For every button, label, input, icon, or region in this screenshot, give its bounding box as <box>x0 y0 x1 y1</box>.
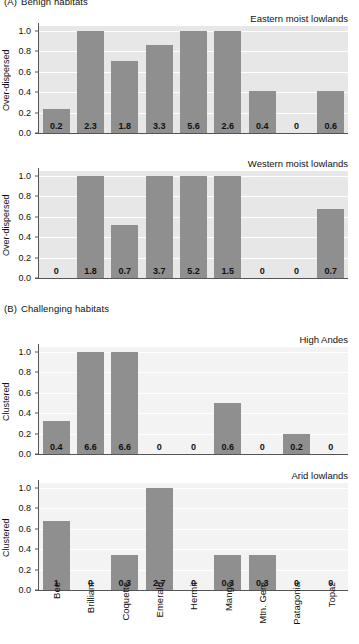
bar-value-label: 0.6 <box>314 122 348 131</box>
bar-value-label: 0 <box>73 579 107 588</box>
bar-slot[interactable]: 0.2 <box>39 26 73 133</box>
x-tick-slot[interactable]: Patagonia <box>279 582 313 644</box>
bar-slot[interactable]: 1.8 <box>108 26 142 133</box>
bar-value-label: 6.6 <box>108 443 142 452</box>
bar-slot[interactable]: 0 <box>73 483 107 590</box>
y-tick-label: 1.0 <box>18 27 31 36</box>
bar-slot[interactable]: 2.7 <box>142 483 176 590</box>
x-tick-slot[interactable]: Bee <box>39 582 73 644</box>
x-tick-slot[interactable]: Hermit <box>176 582 210 644</box>
plot-area: 0.22.31.83.35.62.60.400.6 <box>39 26 348 133</box>
bar[interactable] <box>180 176 207 278</box>
bar-slot[interactable]: 1.5 <box>211 171 245 278</box>
bar-slot[interactable]: 5.2 <box>176 171 210 278</box>
bar-value-label: 0.7 <box>314 267 348 276</box>
panel-a-title: Benign habitats <box>21 0 88 7</box>
bar-slot[interactable]: 0 <box>142 347 176 454</box>
bar-value-label: 0.3 <box>245 579 279 588</box>
y-tick-label: 0.8 <box>18 504 31 513</box>
bar-series: 0.46.66.6000.600.20 <box>39 347 348 454</box>
y-tick-labels: 0.00.20.40.60.81.0 <box>14 26 35 133</box>
chart-title: Western moist lowlands <box>248 158 348 169</box>
bar-value-label: 0 <box>176 579 210 588</box>
y-tick-label: 1.0 <box>18 348 31 357</box>
bar-value-label: 3.7 <box>142 267 176 276</box>
bar-value-label: 5.2 <box>176 267 210 276</box>
y-tick-label: 0.2 <box>18 253 31 262</box>
bar-slot[interactable]: 0.7 <box>108 171 142 278</box>
y-tick-label: 0.8 <box>18 368 31 377</box>
bar-slot[interactable]: 5.6 <box>176 26 210 133</box>
bar-slot[interactable]: 0 <box>245 347 279 454</box>
bar-value-label: 1.8 <box>73 267 107 276</box>
x-axis-category-labels: BeeBrilliantCoquetteEmeraldHermitMangoMt… <box>39 582 348 644</box>
bar-slot[interactable]: 0.4 <box>39 347 73 454</box>
bar-slot[interactable]: 2.3 <box>73 26 107 133</box>
bar-slot[interactable]: 0.6 <box>211 347 245 454</box>
bar-slot[interactable]: 0.2 <box>279 347 313 454</box>
bar-slot[interactable]: 2.6 <box>211 26 245 133</box>
bar-slot[interactable]: 0.4 <box>245 26 279 133</box>
bar-slot[interactable]: 0.3 <box>108 483 142 590</box>
bar-value-label: 0.3 <box>211 579 245 588</box>
bar-slot[interactable]: 3.7 <box>142 171 176 278</box>
bar-slot[interactable]: 0 <box>314 483 348 590</box>
bar[interactable] <box>77 352 104 454</box>
bar-slot[interactable]: 3.3 <box>142 26 176 133</box>
bar-slot[interactable]: 0 <box>314 347 348 454</box>
y-tick-label: 0.6 <box>18 67 31 76</box>
bar-slot[interactable]: 1 <box>39 483 73 590</box>
bar-value-label: 0.2 <box>39 122 73 131</box>
bar-slot[interactable]: 0 <box>176 483 210 590</box>
x-tick-slot[interactable]: Brilliant <box>73 582 107 644</box>
bar[interactable] <box>214 176 241 278</box>
plot-area: 0.46.66.6000.600.20 <box>39 347 348 454</box>
bar-slot[interactable]: 6.6 <box>108 347 142 454</box>
bar-value-label: 3.3 <box>142 122 176 131</box>
bar-value-label: 0 <box>142 443 176 452</box>
bar-slot[interactable]: 0 <box>39 171 73 278</box>
y-tick-label: 0.6 <box>18 212 31 221</box>
bar[interactable] <box>77 176 104 278</box>
bar-value-label: 0 <box>279 579 313 588</box>
bar[interactable] <box>111 352 138 454</box>
bar[interactable] <box>146 488 173 590</box>
panel-b-label: (B)Challenging habitats <box>4 303 109 314</box>
bar-slot[interactable]: 0.3 <box>211 483 245 590</box>
bar-slot[interactable]: 0 <box>279 171 313 278</box>
x-tick-slot[interactable]: Mango <box>211 582 245 644</box>
bar-value-label: 0 <box>176 443 210 452</box>
bar-value-label: 0.2 <box>279 443 313 452</box>
bar-value-label: 0.3 <box>108 579 142 588</box>
x-tick-slot[interactable]: Topaz <box>314 582 348 644</box>
bar-slot[interactable]: 0.3 <box>245 483 279 590</box>
x-tick-label: Mtn. Gem <box>257 582 268 624</box>
bar-value-label: 0 <box>279 267 313 276</box>
figure-root: (A)Benign habitats (B)Challenging habita… <box>0 0 359 644</box>
bar-value-label: 2.7 <box>142 579 176 588</box>
bar-slot[interactable]: 0.6 <box>314 26 348 133</box>
bar[interactable] <box>146 176 173 278</box>
y-tick-labels: 0.00.20.40.60.81.0 <box>14 347 35 454</box>
bar-slot[interactable]: 0.7 <box>314 171 348 278</box>
bar-series: 100.32.700.30.300 <box>39 483 348 590</box>
bar[interactable] <box>77 31 104 133</box>
bar-value-label: 5.6 <box>176 122 210 131</box>
bar[interactable] <box>146 45 173 133</box>
bar-slot[interactable]: 0 <box>245 171 279 278</box>
bar-slot[interactable]: 0 <box>176 347 210 454</box>
y-tick-label: 0.0 <box>18 274 31 283</box>
bar[interactable] <box>214 31 241 133</box>
bar-slot[interactable]: 1.8 <box>73 171 107 278</box>
panel-a-label: (A)Benign habitats <box>4 0 88 7</box>
bar-slot[interactable]: 0 <box>279 483 313 590</box>
x-tick-slot[interactable]: Emerald <box>142 582 176 644</box>
x-tick-slot[interactable]: Mtn. Gem <box>245 582 279 644</box>
bar-slot[interactable]: 6.6 <box>73 347 107 454</box>
bar-slot[interactable]: 0 <box>279 26 313 133</box>
y-tick-label: 0.4 <box>18 409 31 418</box>
x-tick-slot[interactable]: Coquette <box>108 582 142 644</box>
bar[interactable] <box>180 31 207 133</box>
y-axis-label: Clustered <box>1 350 14 453</box>
y-tick-label: 1.0 <box>18 172 31 181</box>
